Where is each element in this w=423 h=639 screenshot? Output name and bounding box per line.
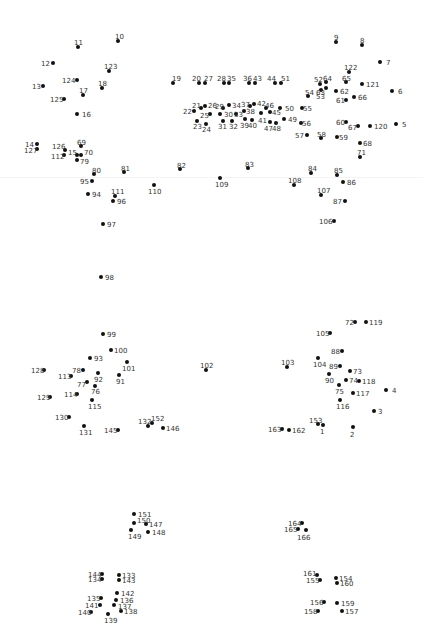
puzzle-dot-number: 160	[340, 580, 353, 588]
puzzle-dot-number: 112	[51, 153, 64, 161]
puzzle-dot-number: 145	[104, 427, 117, 435]
puzzle-dot-number: 25	[200, 112, 209, 120]
puzzle-dot-number: 141	[85, 602, 98, 610]
puzzle-dot-number: 84	[308, 165, 317, 173]
puzzle-dot-number: 87	[333, 198, 342, 206]
puzzle-dot-number: 16	[82, 111, 91, 119]
puzzle-dot	[51, 61, 55, 65]
puzzle-dot-number: 151	[138, 511, 151, 519]
puzzle-dot	[111, 199, 115, 203]
puzzle-dot	[98, 603, 102, 607]
puzzle-dot-number: 88	[331, 348, 340, 356]
puzzle-dot-number: 144	[88, 571, 101, 579]
puzzle-dot	[327, 372, 331, 376]
puzzle-dot	[252, 102, 256, 106]
puzzle-dot-number: 58	[317, 131, 326, 139]
puzzle-dot-number: 139	[104, 617, 117, 625]
puzzle-dot	[132, 512, 136, 516]
puzzle-dot	[316, 356, 320, 360]
puzzle-dot-number: 18	[98, 80, 107, 88]
puzzle-dot-number: 162	[292, 427, 305, 435]
puzzle-dot	[114, 598, 118, 602]
puzzle-dot	[86, 192, 90, 196]
puzzle-dot	[384, 388, 388, 392]
puzzle-dot	[341, 180, 345, 184]
puzzle-dot-number: 71	[357, 149, 366, 157]
puzzle-dot	[117, 373, 121, 377]
puzzle-dot	[75, 78, 79, 82]
puzzle-dot-number: 113	[58, 373, 71, 381]
puzzle-dot-number: 130	[55, 414, 68, 422]
puzzle-dot-number: 156	[310, 599, 323, 607]
puzzle-dot-number: 107	[317, 187, 330, 195]
puzzle-dot-number: 123	[104, 63, 117, 71]
puzzle-dot-number: 54	[305, 89, 314, 97]
puzzle-dot-number: 19	[172, 75, 181, 83]
puzzle-dot-number: 161	[303, 570, 316, 578]
puzzle-dot-number: 12	[41, 60, 50, 68]
puzzle-dot-number: 115	[88, 403, 101, 411]
puzzle-dot-number: 117	[356, 390, 369, 398]
puzzle-dot-number: 76	[91, 388, 100, 396]
puzzle-dot	[352, 95, 356, 99]
puzzle-dot	[109, 348, 113, 352]
puzzle-dot-number: 91	[116, 378, 125, 386]
puzzle-dot-number: 38	[246, 108, 255, 116]
puzzle-dot	[394, 122, 398, 126]
puzzle-dot	[90, 179, 94, 183]
puzzle-dot	[351, 391, 355, 395]
puzzle-dot-number: 4	[392, 387, 396, 395]
puzzle-dot-number: 51	[281, 75, 290, 83]
puzzle-dot-number: 125	[50, 96, 63, 104]
puzzle-dot-number: 68	[363, 140, 372, 148]
puzzle-dot-number: 93	[94, 355, 103, 363]
puzzle-dot-number: 9	[334, 34, 338, 42]
puzzle-dot	[129, 528, 133, 532]
puzzle-dot	[304, 528, 308, 532]
puzzle-dot-number: 119	[369, 319, 382, 327]
puzzle-dot	[125, 360, 129, 364]
puzzle-dot-number: 148	[152, 529, 165, 537]
puzzle-dot	[218, 112, 222, 116]
puzzle-dot	[287, 428, 291, 432]
puzzle-dot	[259, 111, 263, 115]
puzzle-dot	[364, 320, 368, 324]
puzzle-dot-number: 127	[24, 147, 37, 155]
puzzle-dot-number: 128	[31, 367, 44, 375]
puzzle-dot	[119, 609, 123, 613]
puzzle-dot-number: 101	[122, 365, 135, 373]
puzzle-dot-number: 81	[121, 165, 130, 173]
puzzle-dot	[90, 398, 94, 402]
puzzle-dot-number: 159	[341, 600, 354, 608]
puzzle-dot-number: 90	[325, 377, 334, 385]
puzzle-dot-number: 7	[386, 59, 390, 67]
puzzle-dot	[348, 369, 352, 373]
puzzle-dot	[243, 117, 247, 121]
puzzle-dot	[75, 158, 79, 162]
puzzle-dot-number: 110	[148, 188, 161, 196]
puzzle-dot-number: 64	[323, 75, 332, 83]
puzzle-dot-number: 98	[105, 274, 114, 282]
puzzle-dot-number: 65	[342, 75, 351, 83]
puzzle-dot-number: 28	[217, 75, 226, 83]
puzzle-dot-number: 121	[366, 81, 379, 89]
puzzle-dot	[338, 398, 342, 402]
puzzle-dot-number: 99	[107, 331, 116, 339]
puzzle-dot-number: 6	[398, 88, 402, 96]
puzzle-dot-number: 50	[285, 105, 294, 113]
puzzle-dot	[152, 183, 156, 187]
puzzle-dot	[132, 521, 136, 525]
puzzle-dot-number: 120	[374, 123, 387, 131]
puzzle-dot-number: 10	[115, 33, 124, 41]
puzzle-dot-number: 20	[192, 75, 201, 83]
puzzle-dot-number: 1	[320, 428, 324, 436]
puzzle-dot-number: 11	[74, 39, 83, 47]
puzzle-dot-number: 63	[316, 89, 325, 97]
puzzle-dot-number: 122	[344, 64, 357, 72]
puzzle-dot-number: 27	[204, 75, 213, 83]
puzzle-dot	[334, 89, 338, 93]
puzzle-dot-number: 166	[297, 534, 310, 542]
puzzle-dot-number: 152	[151, 415, 164, 423]
puzzle-dot	[117, 573, 121, 577]
puzzle-dot-number: 79	[80, 158, 89, 166]
